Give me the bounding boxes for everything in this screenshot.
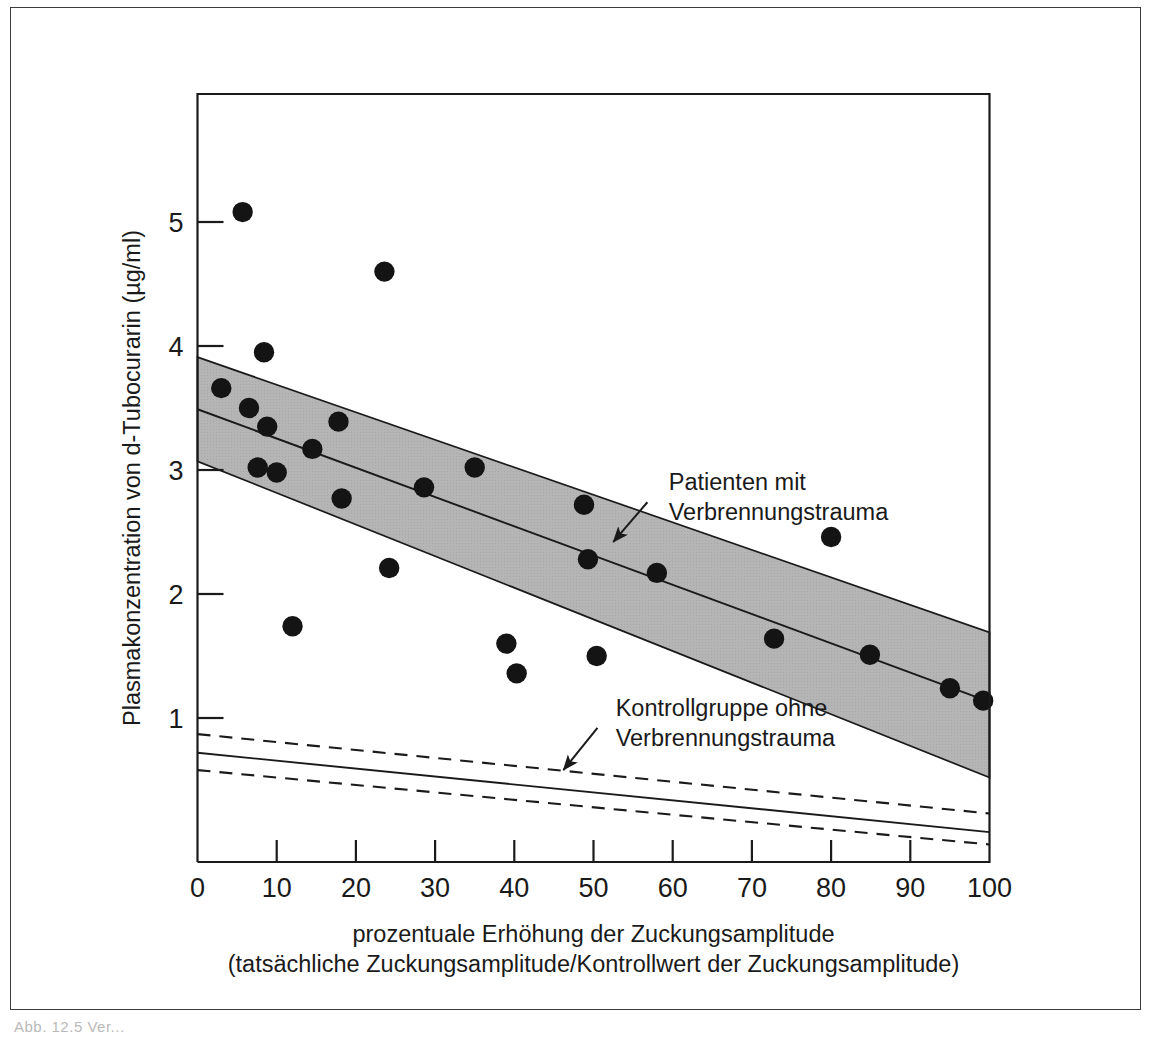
scatter-point [267, 462, 287, 482]
x-axis-tick-label: 40 [499, 873, 529, 903]
scatter-point [414, 477, 434, 497]
figure-root: 0102030405060708090100 12345 prozentuale… [0, 0, 1151, 1040]
scatter-point [331, 488, 351, 508]
chart-stage: 0102030405060708090100 12345 prozentuale… [0, 0, 1151, 1040]
x-axis-tick-label: 80 [816, 873, 846, 903]
scatter-point [232, 202, 252, 222]
chart-svg: 0102030405060708090100 12345 prozentuale… [0, 0, 1151, 1040]
annotation-control-line2: Verbrennungstrauma [616, 725, 836, 751]
scatter-point [302, 439, 322, 459]
scatter-point [282, 616, 302, 636]
y-axis-tick-label: 5 [168, 208, 183, 238]
annotation-control-arrow [563, 728, 597, 770]
scatter-point [254, 342, 274, 362]
x-axis-tick-label: 0 [190, 873, 205, 903]
y-axis-tick-label: 1 [168, 704, 183, 734]
x-axis-tick-label: 30 [420, 873, 450, 903]
x-axis-tick-label: 90 [895, 873, 925, 903]
scatter-point [247, 457, 267, 477]
x-axis-tick-label: 100 [967, 873, 1012, 903]
x-axis-title-line2: (tatsächliche Zuckungsamplitude/Kontroll… [228, 951, 959, 977]
x-axis-title: prozentuale Erhöhung der Zuckungsamplitu… [228, 921, 959, 977]
scatter-point [574, 495, 594, 515]
scatter-point [257, 416, 277, 436]
scatter-point [860, 645, 880, 665]
x-axis-tick-label: 70 [737, 873, 767, 903]
scatter-point [578, 549, 598, 569]
annotation-patients-line1: Patienten mit [669, 469, 807, 495]
y-axis-tick-label: 4 [168, 332, 183, 362]
scatter-point [764, 628, 784, 648]
scatter-point [211, 378, 231, 398]
annotation-control-line1: Kontrollgruppe ohne [616, 695, 828, 721]
scatter-point [239, 398, 259, 418]
y-axis-title: Plasmakonzentration von d-Tubocurarin (µ… [119, 230, 145, 726]
scatter-point [496, 633, 516, 653]
y-axis-tick-labels: 12345 [168, 208, 183, 734]
y-axis-tick-label: 2 [168, 580, 183, 610]
x-axis-title-line1: prozentuale Erhöhung der Zuckungsamplitu… [352, 921, 834, 947]
y-axis-ticks [198, 222, 224, 718]
figure-caption: Abb. 12.5 Ver... [14, 1018, 125, 1035]
scatter-point [647, 563, 667, 583]
scatter-point [506, 663, 526, 683]
scatter-point [465, 457, 485, 477]
annotation-control: Kontrollgruppe ohne Verbrennungstrauma [563, 695, 836, 771]
regression-line-control [198, 753, 990, 832]
annotation-patients-line2: Verbrennungstrauma [669, 499, 889, 525]
y-axis-tick-label: 3 [168, 456, 183, 486]
x-axis-tick-label: 50 [578, 873, 608, 903]
scatter-point [586, 646, 606, 666]
x-axis-tick-label: 60 [658, 873, 688, 903]
scatter-point [374, 261, 394, 281]
x-axis-tick-label: 20 [341, 873, 371, 903]
scatter-point [940, 678, 960, 698]
scatter-point [328, 411, 348, 431]
x-axis-tick-label: 10 [262, 873, 292, 903]
x-axis-ticks [277, 840, 911, 862]
x-axis-tick-labels: 0102030405060708090100 [190, 873, 1012, 903]
scatter-point [379, 558, 399, 578]
scatter-point [821, 527, 841, 547]
y-axis-title-text: Plasmakonzentration von d-Tubocurarin (µ… [119, 230, 145, 726]
confidence-band-control [198, 734, 990, 844]
